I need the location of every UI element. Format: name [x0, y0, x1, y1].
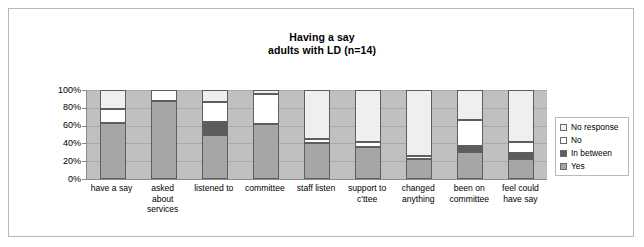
- x-axis-category-label: listened to: [188, 183, 240, 194]
- x-axis-label-line: staff listen: [290, 183, 342, 194]
- x-axis-label-line: changed: [392, 183, 444, 194]
- y-axis-tick-label: 80%: [29, 103, 81, 112]
- legend-item[interactable]: Yes: [560, 161, 625, 171]
- y-axis-tick-label: 0%: [29, 175, 81, 184]
- bar-column[interactable]: [508, 90, 534, 179]
- x-axis-category-label: askedaboutservices: [137, 183, 189, 215]
- legend-item-label: No: [571, 136, 582, 145]
- x-axis-category-label: have a say: [86, 183, 138, 194]
- bar-segment[interactable]: [202, 102, 228, 122]
- legend-item[interactable]: In between: [560, 148, 625, 158]
- x-axis-category-label: been oncommittee: [443, 183, 495, 204]
- bar-segment[interactable]: [100, 123, 126, 179]
- bar-segment[interactable]: [304, 139, 330, 143]
- legend-item[interactable]: No: [560, 135, 625, 145]
- legend-swatch-icon: [560, 163, 567, 170]
- x-axis-label-line: c'ttee: [341, 194, 393, 205]
- bar-column[interactable]: [253, 90, 279, 179]
- bar-segment[interactable]: [457, 152, 483, 179]
- x-axis-label-line: support to: [341, 183, 393, 194]
- bar-segment[interactable]: [304, 90, 330, 139]
- bar-segment[interactable]: [508, 153, 534, 159]
- legend-item-label: In between: [571, 149, 612, 158]
- x-axis-label-line: about: [137, 194, 189, 205]
- legend-item-label: Yes: [571, 162, 585, 171]
- x-axis-label-line: services: [137, 204, 189, 215]
- bar-column[interactable]: [457, 90, 483, 179]
- bar-segment[interactable]: [508, 90, 534, 142]
- bar-segment[interactable]: [151, 90, 177, 101]
- bar-segment[interactable]: [202, 90, 228, 102]
- x-axis-label-line: asked: [137, 183, 189, 194]
- x-axis-labels: have a sayaskedaboutserviceslistened toc…: [86, 183, 546, 231]
- bar-segment[interactable]: [457, 146, 483, 152]
- bar-segment[interactable]: [406, 156, 432, 160]
- x-axis-category-label: support toc'ttee: [341, 183, 393, 204]
- bar-column[interactable]: [202, 90, 228, 179]
- legend-swatch-icon: [560, 124, 567, 131]
- bar-segment[interactable]: [355, 142, 381, 147]
- chart-title-line-2: adults with LD (n=14): [9, 44, 635, 57]
- plot-area: [86, 90, 547, 180]
- bar-segment[interactable]: [100, 109, 126, 123]
- legend-item-label: No response: [571, 123, 619, 132]
- bar-segment[interactable]: [457, 120, 483, 146]
- y-axis-tick-label: 60%: [29, 121, 81, 130]
- y-axis-tick-label: 20%: [29, 157, 81, 166]
- bar-column[interactable]: [151, 90, 177, 179]
- bar-segment[interactable]: [508, 159, 534, 179]
- x-axis-label-line: feel could: [494, 183, 546, 194]
- x-axis-label-line: have say: [494, 194, 546, 205]
- bar-segment[interactable]: [151, 101, 177, 179]
- legend-swatch-icon: [560, 137, 567, 144]
- x-axis-category-label: staff listen: [290, 183, 342, 194]
- x-axis-label-line: committee: [239, 183, 291, 194]
- bar-column[interactable]: [304, 90, 330, 179]
- chart-container: Having a say adults with LD (n=14) 100%8…: [8, 8, 634, 237]
- x-axis-label-line: been on: [443, 183, 495, 194]
- x-axis-label-line: committee: [443, 194, 495, 205]
- x-axis-label-line: anything: [392, 194, 444, 205]
- bar-segment[interactable]: [253, 90, 279, 94]
- y-axis-tick-label: 40%: [29, 139, 81, 148]
- legend-item[interactable]: No response: [560, 122, 625, 132]
- bar-segment[interactable]: [304, 143, 330, 179]
- chart-title-line-1: Having a say: [9, 31, 635, 44]
- y-axis-tick-label: 100%: [29, 86, 81, 95]
- bar-column[interactable]: [406, 90, 432, 179]
- bar-column[interactable]: [100, 90, 126, 179]
- bar-segment[interactable]: [457, 90, 483, 120]
- x-axis-label-line: listened to: [188, 183, 240, 194]
- chart-title: Having a say adults with LD (n=14): [9, 31, 635, 57]
- x-axis-category-label: feel couldhave say: [494, 183, 546, 204]
- bar-segment[interactable]: [355, 147, 381, 179]
- bar-segment[interactable]: [253, 124, 279, 179]
- bar-segment[interactable]: [253, 94, 279, 124]
- bar-column[interactable]: [355, 90, 381, 179]
- bar-segment[interactable]: [355, 90, 381, 142]
- legend-swatch-icon: [560, 150, 567, 157]
- bar-segment[interactable]: [406, 90, 432, 156]
- x-axis-label-line: have a say: [86, 183, 138, 194]
- x-axis-category-label: changedanything: [392, 183, 444, 204]
- x-axis-category-label: committee: [239, 183, 291, 194]
- bar-segment[interactable]: [508, 142, 534, 154]
- bar-segment[interactable]: [100, 90, 126, 109]
- chart-legend: No responseNoIn betweenYes: [555, 117, 629, 176]
- bar-segment[interactable]: [406, 159, 432, 179]
- bar-segment[interactable]: [202, 122, 228, 134]
- bar-segment[interactable]: [202, 135, 228, 180]
